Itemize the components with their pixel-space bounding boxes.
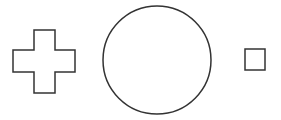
shapes-svg — [0, 0, 281, 120]
circle-shape — [103, 6, 211, 114]
square-shape — [245, 49, 265, 70]
diagram-canvas — [0, 0, 281, 120]
cross-shape — [13, 30, 75, 93]
